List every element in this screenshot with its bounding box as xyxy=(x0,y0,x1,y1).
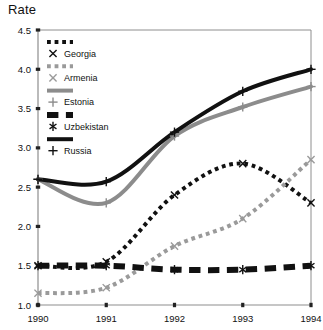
x-tick-label: 1994 xyxy=(300,313,321,324)
plot-area: 1.01.52.02.53.03.54.04.5 199019911992199… xyxy=(0,0,323,330)
legend-label: Georgia xyxy=(64,49,96,59)
y-tick-mark xyxy=(36,186,40,189)
x-tick-label: 1992 xyxy=(164,313,185,324)
x-tick-mark xyxy=(105,303,108,307)
x-tick-label: 1990 xyxy=(27,313,48,324)
legend-item-estonia: Estonia xyxy=(47,91,94,108)
x-axis-ticks: 19901991199219931994 xyxy=(27,303,321,324)
x-marker xyxy=(49,50,56,57)
chart-legend: GeorgiaArmeniaEstoniaUzbekistanRussia xyxy=(47,42,109,156)
x-tick-label: 1993 xyxy=(232,313,253,324)
legend-label: Uzbekistan xyxy=(64,122,109,132)
x-tick-mark xyxy=(309,303,312,307)
legend-item-georgia: Georgia xyxy=(47,42,96,59)
asterisk-marker xyxy=(239,265,246,274)
y-tick-mark xyxy=(36,107,40,110)
line-chart-svg: 1.01.52.02.53.03.54.04.5 199019911992199… xyxy=(0,0,323,330)
y-tick-label: 4.0 xyxy=(18,64,31,75)
x-tick-mark xyxy=(173,303,176,307)
y-tick-label: 1.5 xyxy=(18,260,31,271)
legend-item-uzbekistan: Uzbekistan xyxy=(47,115,109,132)
plus-marker xyxy=(48,98,57,107)
chart-figure: Rate 1.01.52.02.53.03.54.04.5 1990199119… xyxy=(0,0,323,330)
x-tick-mark xyxy=(241,303,244,307)
y-tick-mark xyxy=(36,28,40,31)
plus-marker xyxy=(306,65,315,74)
y-tick-mark xyxy=(36,146,40,149)
x-tick-label: 1991 xyxy=(96,313,117,324)
y-tick-label: 2.0 xyxy=(18,221,31,232)
x-marker xyxy=(49,74,56,81)
y-tick-label: 3.5 xyxy=(18,103,31,114)
y-tick-mark xyxy=(36,225,40,228)
legend-label: Russia xyxy=(64,146,92,156)
y-tick-mark xyxy=(36,68,40,71)
legend-item-russia: Russia xyxy=(47,139,92,156)
series-line-georgia xyxy=(38,163,311,268)
x-tick-mark xyxy=(36,303,39,307)
y-tick-label: 1.0 xyxy=(18,300,31,311)
y-tick-label: 3.0 xyxy=(18,142,31,153)
legend-label: Armenia xyxy=(64,73,98,83)
legend-label: Estonia xyxy=(64,97,94,107)
plus-marker xyxy=(48,146,57,155)
y-tick-label: 4.5 xyxy=(18,25,31,36)
asterisk-marker xyxy=(50,122,57,131)
y-tick-label: 2.5 xyxy=(18,182,31,193)
plus-marker xyxy=(306,82,315,91)
legend-item-armenia: Armenia xyxy=(47,66,98,83)
